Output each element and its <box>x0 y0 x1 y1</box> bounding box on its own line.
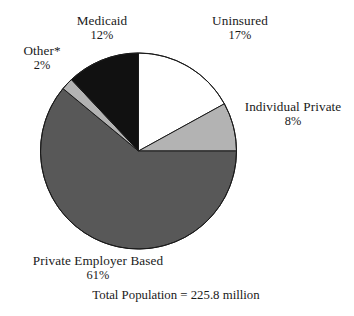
pie-label-other-name: Other* <box>2 44 82 59</box>
pie-label-other: Other* 2% <box>2 44 82 73</box>
pie-label-medicaid-name: Medicaid <box>47 14 157 29</box>
pie-label-individual-private-name: Individual Private <box>232 100 354 115</box>
pie-label-uninsured-value: 17% <box>185 29 295 43</box>
pie-chart-figure: Medicaid 12% Uninsured 17% Other* 2% Ind… <box>0 0 354 316</box>
pie-label-private-employer-based: Private Employer Based 61% <box>8 254 188 283</box>
pie-label-individual-private: Individual Private 8% <box>232 100 354 129</box>
pie-slice-group <box>40 53 236 249</box>
pie-label-uninsured: Uninsured 17% <box>185 14 295 43</box>
pie-label-other-value: 2% <box>2 59 82 73</box>
total-population-caption: Total Population = 225.8 million <box>56 288 296 303</box>
pie-label-individual-private-value: 8% <box>232 115 354 129</box>
pie-label-uninsured-name: Uninsured <box>185 14 295 29</box>
pie-label-private-employer-based-name: Private Employer Based <box>8 254 188 269</box>
pie-label-medicaid: Medicaid 12% <box>47 14 157 43</box>
pie-label-private-employer-based-value: 61% <box>8 269 188 283</box>
pie-label-medicaid-value: 12% <box>47 29 157 43</box>
